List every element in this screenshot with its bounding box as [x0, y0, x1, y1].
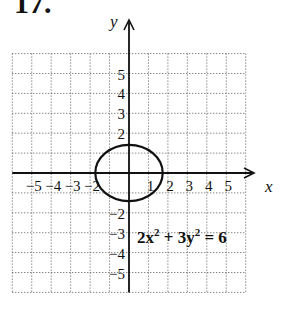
x-tick-label: 5: [225, 178, 233, 194]
x-tick-label: 4: [205, 178, 213, 194]
y-tick-label: −5: [109, 266, 125, 282]
x-tick-label: −4: [45, 178, 61, 194]
y-tick-label: 3: [118, 106, 126, 122]
x-tick-label: 2: [166, 178, 174, 194]
y-tick-label: −3: [109, 226, 125, 242]
coordinate-plane: −5−4−3−2123455432−2−3−4−5 x y 2x2 + 3y2 …: [0, 0, 292, 310]
eq-part-2: + 3y: [160, 228, 196, 247]
y-tick-label: 2: [118, 126, 126, 142]
y-tick-label: −2: [109, 206, 125, 222]
x-tick-label: −5: [26, 178, 42, 194]
y-axis-label: y: [108, 12, 118, 31]
x-axis-label: x: [264, 177, 273, 196]
x-tick-label: −3: [65, 178, 81, 194]
axes: [12, 20, 254, 292]
equation-label: 2x2 + 3y2 = 6: [137, 226, 227, 247]
y-tick-label: 4: [118, 86, 126, 102]
x-tick-label: 3: [186, 178, 194, 194]
x-tick-label: −2: [84, 178, 100, 194]
y-tick-label: −4: [109, 246, 125, 262]
y-tick-label: 5: [118, 67, 126, 83]
eq-part-3: = 6: [200, 228, 227, 247]
eq-part-1: 2x: [137, 228, 155, 247]
